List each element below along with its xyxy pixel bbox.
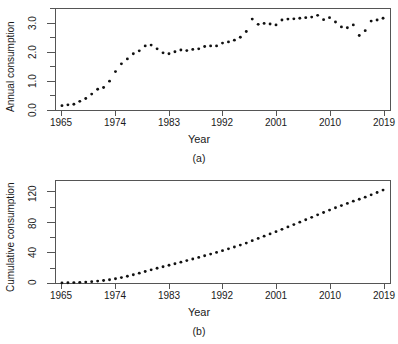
panel-a-xtick-label-3: 1992 <box>202 117 242 128</box>
panel-b-ytick-120 <box>47 191 55 192</box>
data-point <box>78 100 81 103</box>
data-point <box>298 221 301 224</box>
data-point <box>191 48 194 51</box>
panel-b-xtick-label-0: 1965 <box>41 290 81 301</box>
data-point <box>197 256 200 259</box>
panel-a-ytick-label-3: 3.0 <box>26 11 40 35</box>
panel-b-xtick-label-6: 2019 <box>364 290 398 301</box>
data-point <box>209 253 212 256</box>
data-point <box>173 50 176 53</box>
data-point <box>239 36 242 39</box>
panel-a-subcaption: (a) <box>0 152 398 164</box>
data-point <box>185 259 188 262</box>
panel-b-ytick-label-1: 40 <box>26 241 40 263</box>
data-point <box>96 280 99 283</box>
panel-b-xtick-label-2: 1983 <box>149 290 189 301</box>
data-point <box>328 209 331 212</box>
data-point <box>310 16 313 19</box>
panel-a-xtick-label-2: 1983 <box>149 117 189 128</box>
data-point <box>352 23 355 26</box>
panel-b-ytick-40 <box>47 252 55 253</box>
panel-b-xtick-label-3: 1992 <box>202 290 242 301</box>
data-point <box>185 49 188 52</box>
panel-a-xtick-1965 <box>61 111 62 116</box>
data-point <box>364 196 367 199</box>
data-point <box>173 262 176 265</box>
panel-b-xtick-1992 <box>222 284 223 289</box>
panel-a-xtick-label-4: 2001 <box>256 117 296 128</box>
panel-b-ytick-label-2: 80 <box>26 212 40 234</box>
panel-b-data-points <box>56 181 390 283</box>
data-point <box>275 230 278 233</box>
panel-a-plot-area <box>55 8 391 111</box>
data-point <box>144 270 147 273</box>
data-point <box>263 22 266 25</box>
data-point <box>370 193 373 196</box>
data-point <box>203 254 206 257</box>
panel-b-xtick-label-4: 2001 <box>256 290 296 301</box>
data-point <box>292 223 295 226</box>
data-point <box>132 52 135 55</box>
panel-a-x-axis-label: Year <box>0 133 398 145</box>
panel-a-y-axis-label: Annual consumption <box>4 4 18 112</box>
panel-b-ytick-80 <box>47 222 55 223</box>
data-point <box>257 23 260 26</box>
data-point <box>102 279 105 282</box>
data-point <box>352 200 355 203</box>
data-point <box>322 211 325 214</box>
data-point <box>292 17 295 20</box>
data-point <box>304 218 307 221</box>
panel-b-ytick-label-3: 120 <box>26 180 40 208</box>
data-point <box>102 86 105 89</box>
data-point <box>221 249 224 252</box>
panel-a-ytick-label-0: 0.0 <box>26 98 40 122</box>
panel-b-plot-area <box>55 180 391 284</box>
panel-b-xtick-1983 <box>169 284 170 289</box>
panel-a-ytick-0 <box>47 110 55 111</box>
data-point <box>108 80 111 83</box>
panel-a-xtick-1992 <box>222 111 223 116</box>
data-point <box>120 62 123 65</box>
panel-a-xtick-1983 <box>169 111 170 116</box>
data-point <box>382 17 385 20</box>
panel-a-xtick-label-0: 1965 <box>41 117 81 128</box>
panel-b-ytick-label-0: 0 <box>26 272 40 292</box>
data-point <box>245 242 248 245</box>
data-point <box>215 251 218 254</box>
data-point <box>132 273 135 276</box>
data-point <box>179 49 182 52</box>
data-point <box>286 226 289 229</box>
data-point <box>227 247 230 250</box>
panel-a-xtick-label-1: 1974 <box>95 117 135 128</box>
data-point <box>322 18 325 21</box>
data-point <box>370 20 373 23</box>
data-point <box>251 239 254 242</box>
panel-a-xtick-1974 <box>115 111 116 116</box>
data-point <box>364 29 367 32</box>
data-point <box>114 70 117 73</box>
data-point <box>162 51 165 54</box>
data-point <box>233 246 236 249</box>
data-point <box>191 258 194 261</box>
data-point <box>114 277 117 280</box>
data-point <box>84 281 87 284</box>
data-point <box>263 235 266 238</box>
panel-a-xtick-2010 <box>330 111 331 116</box>
data-point <box>286 18 289 21</box>
panel-b-xtick-2001 <box>276 284 277 289</box>
data-point <box>269 233 272 236</box>
panel-a-xtick-2019 <box>384 111 385 116</box>
data-point <box>156 267 159 270</box>
data-point <box>138 49 141 52</box>
data-point <box>179 261 182 264</box>
data-point <box>304 16 307 19</box>
data-point <box>209 45 212 48</box>
data-point <box>310 216 313 219</box>
data-point <box>138 272 141 275</box>
data-point <box>239 244 242 247</box>
data-point <box>221 42 224 45</box>
data-point <box>281 19 284 22</box>
panel-a-ytick-label-2: 2.0 <box>26 40 40 64</box>
data-point <box>382 189 385 192</box>
data-point <box>126 275 129 278</box>
